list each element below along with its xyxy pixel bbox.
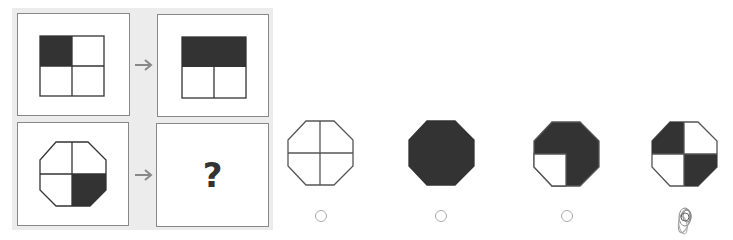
arrow-right-icon [134, 168, 154, 182]
option-b-radio[interactable] [435, 210, 447, 222]
arrow-right-icon [134, 58, 154, 72]
example-source-box [17, 13, 130, 116]
query-source-box [17, 122, 129, 226]
answer-box: ? [156, 123, 269, 227]
option-b-figure[interactable] [407, 119, 477, 189]
option-d-scribble-mark[interactable] [672, 203, 698, 239]
octagon-bottom-right-shaded-figure [18, 123, 128, 225]
example-target-box [157, 14, 269, 117]
option-d-figure[interactable] [650, 120, 720, 190]
square-top-left-shaded-figure [18, 14, 129, 115]
option-c-figure[interactable] [532, 120, 602, 190]
question-mark: ? [157, 124, 268, 226]
option-a-radio[interactable] [315, 210, 327, 222]
option-a-figure[interactable] [286, 119, 356, 189]
square-top-half-shaded-figure [158, 15, 268, 116]
option-c-radio[interactable] [561, 210, 573, 222]
